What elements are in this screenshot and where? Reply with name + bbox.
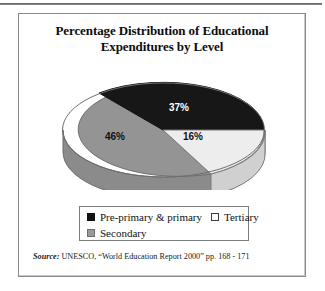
chart-figure: Percentage Distribution of Educational E… — [0, 0, 325, 291]
source-prefix: Source: — [33, 252, 59, 261]
legend-item-tertiary: Tertiary — [211, 211, 259, 223]
legend-row-2: Secondary — [80, 225, 248, 241]
legend-label-tertiary: Tertiary — [224, 211, 259, 223]
pie-chart: 37% 16% 46% — [61, 70, 266, 190]
pie-chart-svg — [61, 70, 266, 190]
legend-item-pre-primary-primary: Pre-primary & primary — [87, 211, 202, 223]
chart-legend: Pre-primary & primary Tertiary Secondary — [79, 206, 249, 241]
source-note: Source: UNESCO, “World Education Report … — [33, 252, 297, 262]
pie-label-secondary: 46% — [105, 131, 125, 142]
pie-label-tertiary: 16% — [183, 131, 203, 142]
source-text: UNESCO, “World Education Report 2000” pp… — [61, 252, 249, 261]
legend-item-secondary: Secondary — [87, 227, 146, 239]
chart-title-line-2: Expenditures by Level — [29, 39, 295, 55]
gray-square-icon — [87, 229, 95, 237]
legend-row-1: Pre-primary & primary Tertiary — [80, 209, 248, 225]
legend-label-pre-primary-primary: Pre-primary & primary — [100, 211, 202, 223]
pie-label-pre-primary-primary: 37% — [169, 102, 189, 113]
figure-frame: Percentage Distribution of Educational E… — [18, 13, 306, 277]
top-divider-rule — [0, 3, 322, 5]
white-square-icon — [211, 213, 219, 221]
black-square-icon — [87, 213, 95, 221]
legend-label-secondary: Secondary — [100, 227, 146, 239]
chart-title-line-1: Percentage Distribution of Educational — [56, 23, 269, 38]
chart-title: Percentage Distribution of Educational E… — [29, 23, 295, 55]
